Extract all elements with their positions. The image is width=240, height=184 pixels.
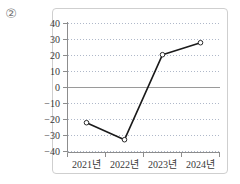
data-series-line — [87, 43, 201, 140]
y-tick-label: −20 — [44, 114, 60, 125]
y-tick-labels: 40 30 20 10 0 −10 −20 −30 −40 — [44, 18, 60, 157]
x-tick-labels: 2021년 2022년 2023년 2024년 — [72, 159, 215, 170]
x-tick-label: 2023년 — [148, 159, 177, 170]
y-tick-label: −30 — [44, 130, 60, 141]
x-axis — [68, 153, 221, 158]
y-tick-label: 30 — [50, 34, 60, 45]
x-tick-label: 2022년 — [110, 159, 139, 170]
chart-figure: ② — [0, 0, 240, 184]
data-point-marker — [84, 120, 89, 125]
y-tick-label: 40 — [50, 18, 60, 29]
x-tick-label: 2021년 — [72, 159, 101, 170]
x-tick-label: 2024년 — [186, 159, 215, 170]
y-axis — [63, 22, 68, 152]
line-chart-plot: 40 30 20 10 0 −10 −20 −30 −40 2021년 2022… — [0, 0, 240, 184]
y-tick-label: −10 — [44, 98, 60, 109]
data-point-marker — [160, 52, 165, 57]
y-tick-label: 10 — [50, 66, 60, 77]
y-tick-label: 20 — [50, 50, 60, 61]
data-point-marker — [122, 137, 127, 142]
y-tick-label: 0 — [55, 82, 60, 93]
y-tick-label: −40 — [44, 146, 60, 157]
data-point-marker — [198, 40, 203, 45]
